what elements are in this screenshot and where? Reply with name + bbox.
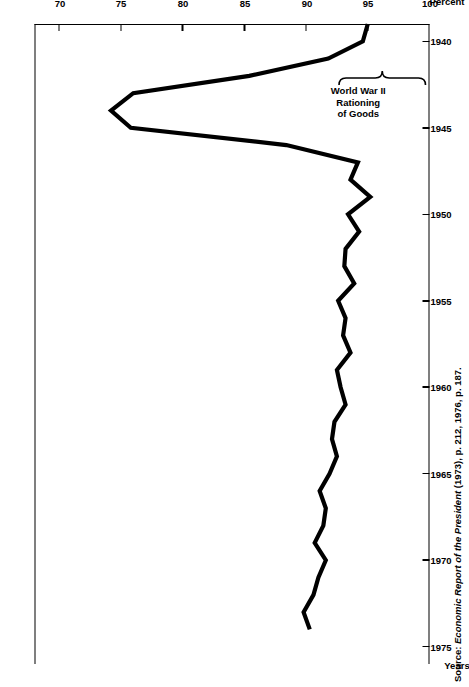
percent-tick [58,24,60,31]
wwii-annotation-line2: Rationing [318,96,398,108]
percent-tick-label: 75 [108,0,134,8]
plot-area: World War II Rationing of Goods [34,24,429,664]
source-suffix: (1973), p. 212, 1976, p. 187. [452,367,463,491]
rotated-chart-wrapper: World War II Rationing of Goods 19401945… [34,24,429,664]
year-tick-label: 1945 [424,122,458,133]
percent-tick-label: 85 [231,0,257,8]
year-tick-label: 1950 [424,208,458,219]
wwii-annotation-label: World War II Rationing of Goods [318,84,398,119]
percent-tick-label: 95 [355,0,381,8]
data-line-series [34,24,429,664]
wwii-annotation-line1: World War II [318,84,398,96]
wwii-annotation-line3: of Goods [318,107,398,119]
percent-tick-label: 70 [46,0,72,8]
percent-tick-label: 80 [170,0,196,8]
percent-tick [181,24,183,31]
percent-axis-title: Percent [429,0,464,6]
source-prefix: Source: [452,644,463,682]
percent-tick [120,24,122,31]
source-title: Economic Report of the President [452,491,463,644]
percent-tick [305,24,307,31]
percent-tick [243,24,245,31]
year-tick-label: 1940 [424,35,458,46]
percent-tick-label: 90 [293,0,319,8]
year-tick-label: 1955 [424,295,458,306]
percent-tick [367,24,369,31]
source-note: Source: Economic Report of the President… [452,367,463,682]
